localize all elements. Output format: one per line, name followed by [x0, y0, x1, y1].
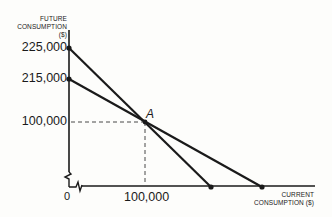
- x-axis-break: [69, 182, 82, 191]
- x-axis-title: CURRENT CONSUMPTION ($): [254, 191, 314, 207]
- point-215000: [66, 76, 71, 81]
- budget-line-flat: [69, 79, 262, 187]
- y-tick-215000: 215,000: [22, 71, 67, 85]
- x-axis-title-line1: CURRENT: [254, 191, 314, 199]
- y-axis-title: FUTURE CONSUMPTION ($): [17, 15, 67, 39]
- y-tick-100000: 100,000: [22, 114, 67, 128]
- x-axis-title-line2: CONSUMPTION ($): [254, 199, 314, 207]
- y-axis-break: [65, 172, 71, 187]
- x-tick-0: 0: [64, 190, 70, 202]
- y-tick-225000: 225,000: [22, 40, 67, 54]
- y-axis-title-line2: CONSUMPTION: [17, 23, 67, 31]
- y-axis-title-line1: FUTURE: [17, 15, 67, 23]
- y-axis-title-line3: ($): [17, 31, 67, 39]
- point-A-label: A: [146, 107, 154, 121]
- x-intercept-flat: [259, 184, 264, 189]
- x-tick-100000: 100,000: [124, 190, 169, 204]
- x-intercept-steep: [208, 184, 213, 189]
- point-225000: [66, 45, 71, 50]
